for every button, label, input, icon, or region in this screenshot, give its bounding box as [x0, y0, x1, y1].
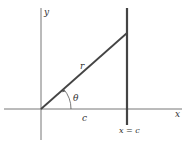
vertical-line-label: x = c — [119, 126, 140, 135]
base-label: c — [82, 113, 87, 123]
radius-line — [41, 33, 127, 109]
angle-arc — [64, 89, 72, 109]
radius-label: r — [80, 61, 85, 71]
polar-diagram: y x r θ c x = c — [0, 0, 182, 149]
y-axis-label: y — [43, 7, 50, 17]
x-axis-label: x — [175, 109, 180, 119]
angle-label: θ — [73, 93, 79, 103]
